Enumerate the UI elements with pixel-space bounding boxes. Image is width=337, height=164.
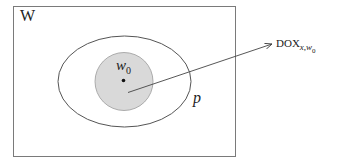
w0-label-sub: 0 [126, 65, 131, 76]
w0-label: w0 [116, 57, 131, 76]
p-label-text: p [193, 89, 201, 106]
w0-point-dot [122, 79, 126, 83]
universe-label-w: W [20, 7, 35, 25]
universe-label-text: W [20, 7, 35, 24]
dox-sub-w0: 0 [312, 47, 316, 55]
p-label: p [193, 89, 201, 107]
dox-label-base: DOX [276, 37, 300, 49]
w0-label-base: w [116, 57, 126, 73]
diagram-canvas [0, 0, 337, 164]
dox-label: DOXx,w0 [276, 36, 316, 55]
